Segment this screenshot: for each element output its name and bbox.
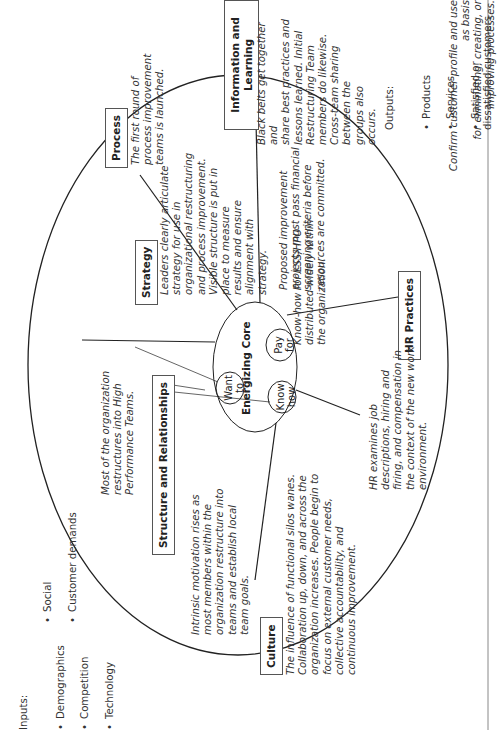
inputs-list-1: Demographics Competition Technology — [43, 645, 128, 730]
inputs-heading: Inputs: — [18, 645, 30, 730]
info-learning-box: Information and Learning — [224, 0, 259, 130]
input-item: Competition — [79, 645, 91, 730]
footer-note: Confirm customer profile and use as basi… — [448, 0, 497, 180]
know-how-label: Know how — [275, 382, 297, 412]
output-item: Products — [421, 16, 433, 130]
hpt-note: Most of the organization restructures in… — [100, 371, 137, 495]
structure-relationships-box: Structure and Relationships — [152, 375, 175, 555]
inputs-block-2: Social Customer demands — [18, 512, 103, 623]
culture-box: Culture — [260, 617, 283, 675]
culture-text: The influence of functional silos wanes.… — [285, 474, 358, 675]
process-text: The first round of process improvement t… — [130, 54, 167, 165]
strategy-text: Leaders clearly articulate strategy for … — [159, 153, 269, 295]
inputs-block: Inputs: Demographics Competition Technol… — [6, 645, 140, 730]
structure-text: Intrinsic motivation rises as most membe… — [190, 489, 251, 635]
hr-text: HR examines job descriptions, hiring and… — [368, 346, 429, 490]
outputs-heading: Outputs: — [384, 16, 396, 130]
strategy-box: Strategy — [135, 240, 158, 305]
input-item: Technology — [104, 645, 116, 730]
want-to-label: Want to — [223, 373, 245, 403]
input-item: Demographics — [55, 645, 67, 730]
input-item: Social — [42, 512, 54, 623]
info-learning-text: Black belts get together and share best … — [256, 0, 378, 145]
process-box: Process — [105, 108, 128, 168]
input-item: Customer demands — [67, 512, 79, 623]
pay-for-note: Proposed improvement projects must pass … — [278, 147, 327, 290]
